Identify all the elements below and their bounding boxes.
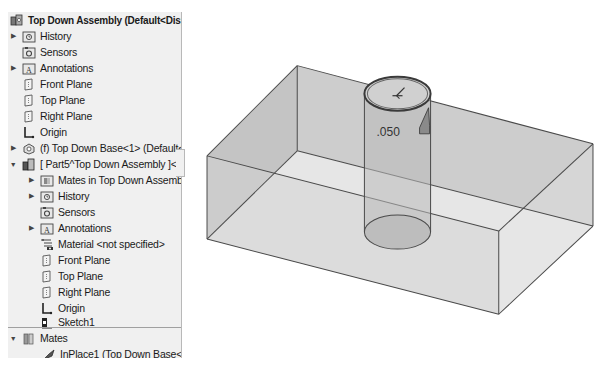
sensors-folder-icon xyxy=(22,46,36,59)
virtual-part-icon xyxy=(22,158,36,171)
tree-item-right-plane[interactable]: Right Plane xyxy=(18,108,92,124)
mates-icon xyxy=(22,332,36,345)
plane-icon xyxy=(40,286,54,299)
tree-item-mates[interactable]: ▼ Mates xyxy=(8,330,68,346)
plane-icon xyxy=(40,254,54,267)
plane-icon xyxy=(40,270,54,283)
tree-root-assembly[interactable]: Top Down Assembly (Default<Display St xyxy=(10,12,182,28)
tree-item-top-plane-2[interactable]: Top Plane xyxy=(36,268,103,284)
tree-item-label: Sensors xyxy=(58,206,95,218)
origin-icon xyxy=(40,302,54,315)
tree-item-annotations-2[interactable]: ▶ A Annotations xyxy=(26,220,111,236)
origin-icon xyxy=(22,126,36,139)
part-icon xyxy=(22,142,36,155)
tree-item-top-plane[interactable]: Top Plane xyxy=(18,92,85,108)
tree-item-mates-in-assembly[interactable]: ▶ Mates in Top Down Assembly xyxy=(26,172,182,188)
tree-item-label: History xyxy=(40,30,71,42)
dimension-label[interactable]: .050 xyxy=(376,125,400,139)
tree-item-label: Front Plane xyxy=(58,254,110,266)
mates-folder-icon xyxy=(40,174,54,187)
collapse-arrow-icon[interactable]: ▼ xyxy=(8,335,18,342)
tree-root-label: Top Down Assembly (Default<Display St xyxy=(28,15,182,26)
tree-item-label: Right Plane xyxy=(40,110,92,122)
tree-item-annotations[interactable]: ▶ A Annotations xyxy=(8,60,93,76)
tree-item-front-plane-2[interactable]: Front Plane xyxy=(36,252,110,268)
tree-item-history[interactable]: ▶ History xyxy=(8,28,71,44)
tree-item-origin[interactable]: Origin xyxy=(18,124,67,140)
tree-item-sensors[interactable]: Sensors xyxy=(18,44,77,60)
sensors-folder-icon xyxy=(40,206,54,219)
expand-arrow-icon[interactable]: ▶ xyxy=(26,224,36,232)
svg-text:A: A xyxy=(26,65,32,74)
tree-item-label: Top Plane xyxy=(40,94,85,106)
plane-icon xyxy=(22,78,36,91)
tree-item-sensors-2[interactable]: Sensors xyxy=(36,204,95,220)
feature-manager-tree: Top Down Assembly (Default<Display St ▶ … xyxy=(8,12,182,358)
tree-item-top-down-base[interactable]: ▶ (f) Top Down Base<1> (Default<<De xyxy=(8,140,182,156)
tree-item-label: (f) Top Down Base<1> (Default<<De xyxy=(40,142,182,154)
assembly-icon xyxy=(10,14,24,27)
tree-item-label: Annotations xyxy=(40,62,93,74)
expand-arrow-icon[interactable]: ▶ xyxy=(26,192,36,200)
tree-item-part5-virtual[interactable]: ▼ [ Part5^Top Down Assembly ]<1> (D xyxy=(8,156,182,172)
tree-item-right-plane-2[interactable]: Right Plane xyxy=(36,284,110,300)
tree-item-label: History xyxy=(58,190,89,202)
tree-flyout-notch xyxy=(176,149,185,177)
tree-item-label: Right Plane xyxy=(58,286,110,298)
tree-item-material[interactable]: Material <not specified> xyxy=(36,236,165,252)
tree-item-label: Origin xyxy=(40,126,67,138)
annotations-folder-icon: A xyxy=(22,62,36,75)
plane-icon xyxy=(22,94,36,107)
tree-item-inplace1[interactable]: InPlace1 (Top Down Base<1>,Pa xyxy=(42,346,182,358)
tree-item-label: InPlace1 (Top Down Base<1>,Pa xyxy=(60,348,182,358)
tree-item-front-plane[interactable]: Front Plane xyxy=(18,76,92,92)
tree-item-label: Annotations xyxy=(58,222,111,234)
expand-arrow-icon[interactable]: ▶ xyxy=(26,176,36,184)
tree-item-label: Mates xyxy=(40,332,68,344)
expand-arrow-icon[interactable]: ▶ xyxy=(8,64,18,72)
tree-item-label: Origin xyxy=(58,302,85,314)
inplace-mate-icon xyxy=(42,348,56,359)
history-folder-icon xyxy=(22,30,36,43)
collapse-arrow-icon[interactable]: ▼ xyxy=(8,161,18,168)
tree-item-history-2[interactable]: ▶ History xyxy=(26,188,89,204)
tree-item-label: Front Plane xyxy=(40,78,92,90)
graphics-viewport[interactable]: .050 xyxy=(200,55,601,367)
cylinder xyxy=(364,77,430,249)
svg-text:A: A xyxy=(44,225,50,234)
expand-arrow-icon[interactable]: ▶ xyxy=(8,32,18,40)
model-view: .050 xyxy=(200,55,601,367)
tree-separator xyxy=(8,327,181,328)
tree-item-label: [ Part5^Top Down Assembly ]<1> (D xyxy=(40,158,182,170)
expand-arrow-icon[interactable]: ▶ xyxy=(8,144,18,152)
tree-item-label: Material <not specified> xyxy=(58,238,165,250)
material-icon xyxy=(40,238,54,251)
annotations-folder-icon: A xyxy=(40,222,54,235)
tree-item-label: Mates in Top Down Assembly xyxy=(58,174,182,186)
tree-item-label: Sensors xyxy=(40,46,77,58)
history-folder-icon xyxy=(40,190,54,203)
plane-icon xyxy=(22,110,36,123)
tree-item-label: Top Plane xyxy=(58,270,103,282)
